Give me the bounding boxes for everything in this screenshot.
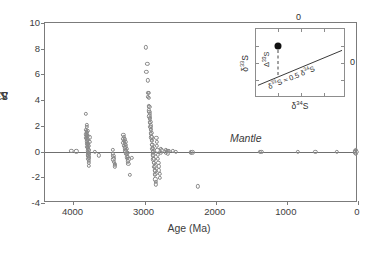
inset-left-tick	[256, 63, 259, 64]
inset-bottom-tick	[324, 93, 325, 96]
y-tick-label: 0	[6, 145, 40, 156]
sulfur-isotope-inset-panel: Δ33S δ33S ≈ 0.5 δ34S	[255, 28, 345, 97]
inset-y-sup: 33	[239, 61, 245, 67]
x-tick	[358, 201, 359, 205]
data-point	[87, 155, 91, 159]
data-point	[145, 61, 149, 65]
data-point	[313, 149, 317, 153]
y-axis-title-tail: S (per mil)	[0, 90, 8, 102]
data-point	[74, 149, 78, 153]
x-tick-label: 0	[354, 206, 359, 217]
inset-left-tick	[256, 46, 259, 47]
delta-tail: S	[262, 52, 271, 57]
inset-right-tick	[341, 46, 344, 47]
x-tick-label: 3000	[133, 206, 154, 217]
inset-y-delta: δ	[240, 67, 250, 72]
sample-point-marker	[275, 43, 282, 50]
x-tick-label: 2000	[204, 206, 225, 217]
inset-x-tail: S	[303, 101, 309, 111]
y-tick	[41, 126, 45, 127]
data-point	[113, 163, 117, 167]
data-point	[93, 149, 97, 153]
data-point	[87, 140, 91, 144]
x-tick-label: 1000	[275, 206, 296, 217]
inset-top-zero-label: 0	[296, 12, 301, 22]
inset-bottom-tick	[301, 93, 302, 96]
inset-right-tick	[341, 80, 344, 81]
inset-right-tick	[341, 63, 344, 64]
data-point	[295, 149, 299, 153]
y-tick-label: 2	[6, 119, 40, 130]
y-tick	[41, 49, 45, 50]
data-point	[259, 149, 263, 153]
mantle-annotation-label: Mantle	[230, 132, 262, 144]
data-point	[196, 184, 200, 188]
data-point	[130, 156, 134, 160]
y-tick	[41, 152, 45, 153]
x-axis-title: Age (Ma)	[0, 222, 378, 234]
y-tick	[41, 23, 45, 24]
y-tick	[41, 177, 45, 178]
y-tick-label: 10	[6, 17, 40, 28]
data-point	[87, 164, 91, 168]
y-axis-tick-labels: -4-20246810	[0, 22, 40, 202]
data-point	[83, 111, 87, 115]
data-point	[354, 149, 358, 153]
data-point	[190, 150, 194, 154]
data-point	[144, 45, 148, 49]
data-point	[126, 162, 130, 166]
inset-bottom-tick	[278, 93, 279, 96]
sulfur-isotope-scatter-figure: -4-20246810 Δ33S (per mil) Mantle 400030…	[0, 0, 378, 262]
data-point	[146, 95, 150, 99]
x-axis-tick-labels: 40003000200010000	[44, 204, 357, 220]
data-point	[147, 104, 151, 108]
inset-x-axis-title: δ34S	[292, 100, 309, 111]
x-tick-label: 4000	[62, 206, 83, 217]
delta33s-offset-dashed-line	[278, 50, 279, 75]
inset-left-tick	[256, 80, 259, 81]
y-tick	[41, 100, 45, 101]
data-point	[146, 78, 150, 82]
delta-superscript: 33	[261, 56, 267, 62]
inset-right-zero-label: 0	[350, 57, 355, 67]
y-tick-label: 4	[6, 94, 40, 105]
data-point	[154, 182, 158, 186]
y-tick-label: -2	[6, 171, 40, 182]
inset-top-tick	[324, 29, 325, 32]
inset-top-tick	[301, 29, 302, 32]
data-point	[174, 149, 178, 153]
inset-y-axis-title: δ33S	[239, 55, 250, 72]
data-point	[144, 70, 148, 74]
zero-reference-line	[45, 152, 356, 153]
y-tick-label: 6	[6, 68, 40, 79]
data-point	[335, 149, 339, 153]
delta-symbol: Δ	[262, 62, 271, 67]
inset-y-tail: S	[240, 55, 250, 61]
data-point	[97, 153, 101, 157]
inset-top-tick	[278, 29, 279, 32]
y-tick-label: -4	[6, 197, 40, 208]
data-point	[158, 176, 162, 180]
y-tick	[41, 74, 45, 75]
y-tick-label: 8	[6, 42, 40, 53]
delta33s-inset-label: Δ33S	[261, 52, 271, 67]
data-point	[127, 173, 131, 177]
